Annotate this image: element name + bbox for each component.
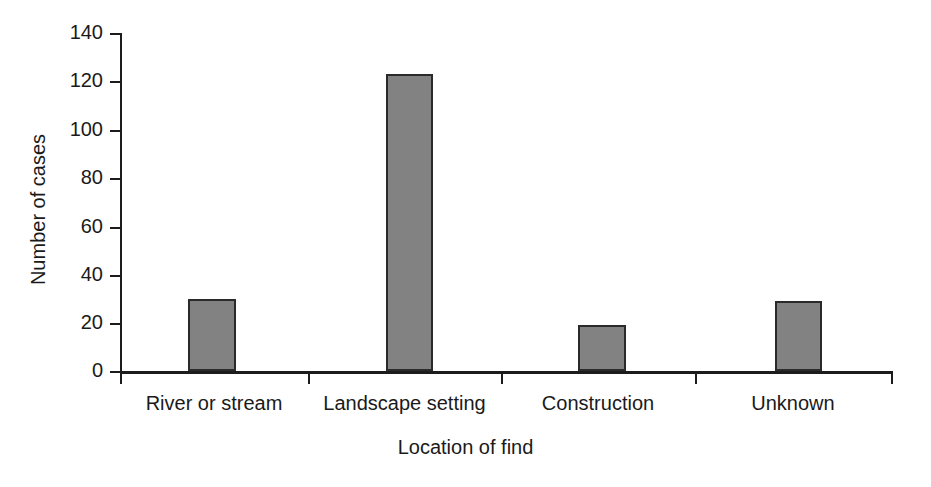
y-axis-tick-label-120: 120 <box>43 69 103 92</box>
x-axis-category-label-construction: Construction <box>501 392 695 415</box>
y-axis-tick-140 <box>110 33 121 35</box>
x-axis-category-label-landscape-setting: Landscape setting <box>308 392 501 415</box>
y-axis-tick-label-0: 0 <box>43 359 103 382</box>
x-axis-category-label-unknown: Unknown <box>695 392 891 415</box>
y-axis-tick-label-140: 140 <box>43 21 103 44</box>
y-axis-tick-100 <box>110 130 121 132</box>
x-axis-category-label-river-or-stream: River or stream <box>120 392 308 415</box>
y-axis-tick-20 <box>110 323 121 325</box>
x-axis-tick-start <box>120 373 122 384</box>
bar-construction <box>578 325 626 371</box>
x-axis-tick-3 <box>695 373 697 384</box>
y-axis-tick-60 <box>110 227 121 229</box>
y-axis-tick-label-80: 80 <box>43 166 103 189</box>
bar-river-or-stream <box>188 299 236 371</box>
y-axis-tick-40 <box>110 275 121 277</box>
y-axis-tick-label-20: 20 <box>43 311 103 334</box>
y-axis-tick-label-100: 100 <box>43 118 103 141</box>
x-axis-tick-1 <box>308 373 310 384</box>
y-axis-tick-80 <box>110 178 121 180</box>
x-axis-title: Location of find <box>0 436 931 459</box>
y-axis-title: Number of cases <box>27 110 50 310</box>
bar-landscape-setting <box>386 74 433 371</box>
chart-figure: 140 120 100 80 60 40 20 0 Number of case… <box>0 0 931 487</box>
x-axis-tick-end <box>891 373 893 384</box>
bar-unknown <box>775 301 822 371</box>
y-axis-tick-120 <box>110 81 121 83</box>
y-axis-tick-label-40: 40 <box>43 263 103 286</box>
y-axis-line <box>120 33 122 373</box>
x-axis-tick-2 <box>501 373 503 384</box>
y-axis-tick-label-60: 60 <box>43 215 103 238</box>
x-axis-line <box>120 371 893 374</box>
